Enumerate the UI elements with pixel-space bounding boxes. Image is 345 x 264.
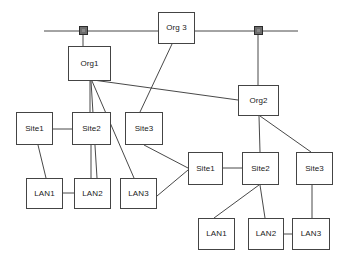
node-l-lan2[interactable]: LAN2 [74,178,111,209]
node-label-r-site2: Site2 [251,165,270,173]
link-link-lsite1-llan1 [38,145,46,178]
link-link-org2-rsite2 [259,116,260,152]
link-link-lsite3-rsite1 [144,145,188,168]
node-label-r-lan2: LAN2 [256,230,276,238]
node-label-l-site1: Site1 [25,125,44,133]
link-link-llan3-rsite1 [157,170,188,196]
node-label-l-lan3: LAN3 [128,190,148,198]
link-link-org1-org2 [93,80,238,100]
node-l-site1[interactable]: Site1 [16,112,53,145]
node-l-lan3[interactable]: LAN3 [120,178,157,209]
node-label-org3: Org 3 [166,24,187,32]
node-r-lan1[interactable]: LAN1 [198,218,235,250]
bus-connector-left-icon[interactable] [79,26,88,35]
node-r-site1[interactable]: Site1 [188,152,223,185]
node-label-r-site3: Site3 [305,165,324,173]
node-org2[interactable]: Org2 [238,85,279,116]
node-label-l-site2: Site2 [82,125,101,133]
node-label-r-lan3: LAN3 [301,230,321,238]
node-label-l-site3: Site3 [135,125,154,133]
node-org1[interactable]: Org1 [68,46,111,81]
network-diagram-canvas: Org 3Org1Org2Site1Site2Site3LAN1LAN2LAN3… [0,0,345,264]
node-r-lan2[interactable]: LAN2 [248,218,284,250]
node-l-site3[interactable]: Site3 [125,112,163,145]
link-link-org3-site3 [140,44,172,112]
link-link-org2-rsite3 [260,116,311,152]
link-link-rsite2-rlan1 [214,185,259,218]
node-label-r-lan1: LAN1 [206,230,226,238]
node-label-r-site1: Site1 [196,165,215,173]
node-org3[interactable]: Org 3 [158,12,195,44]
node-l-lan1[interactable]: LAN1 [26,178,63,209]
bus-connector-right-icon[interactable] [254,26,263,35]
node-r-lan3[interactable]: LAN3 [292,218,330,250]
link-link-rsite2-rlan2 [260,185,265,218]
node-label-l-lan2: LAN2 [82,190,102,198]
node-l-site2[interactable]: Site2 [72,112,111,145]
node-label-l-lan1: LAN1 [34,190,54,198]
node-label-org1: Org1 [80,60,98,68]
node-r-site2[interactable]: Site2 [242,152,279,185]
node-r-site3[interactable]: Site3 [296,152,333,185]
node-label-org2: Org2 [249,97,267,105]
